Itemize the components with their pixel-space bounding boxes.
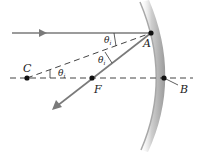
angle-arc-reflected <box>105 52 112 63</box>
radius-line-CA <box>27 33 151 78</box>
point-A <box>148 30 153 35</box>
label-B: B <box>179 83 188 96</box>
label-A: A <box>142 37 151 50</box>
angle-arc-incident <box>114 33 116 46</box>
label-F: F <box>93 83 102 96</box>
arrow-right-icon <box>39 29 47 37</box>
point-C <box>24 75 29 80</box>
concave-mirror <box>140 0 165 152</box>
angle-label-incident: θi <box>104 35 111 46</box>
angle-label-reflected: θi <box>98 55 105 66</box>
angle-label-center: θi <box>58 68 65 79</box>
label-C: C <box>23 62 32 75</box>
concave-mirror-diagram: A B C F θi θi θi <box>0 0 204 158</box>
point-F <box>89 75 94 80</box>
point-B <box>161 75 166 80</box>
arrow-down-left-icon <box>52 100 62 110</box>
